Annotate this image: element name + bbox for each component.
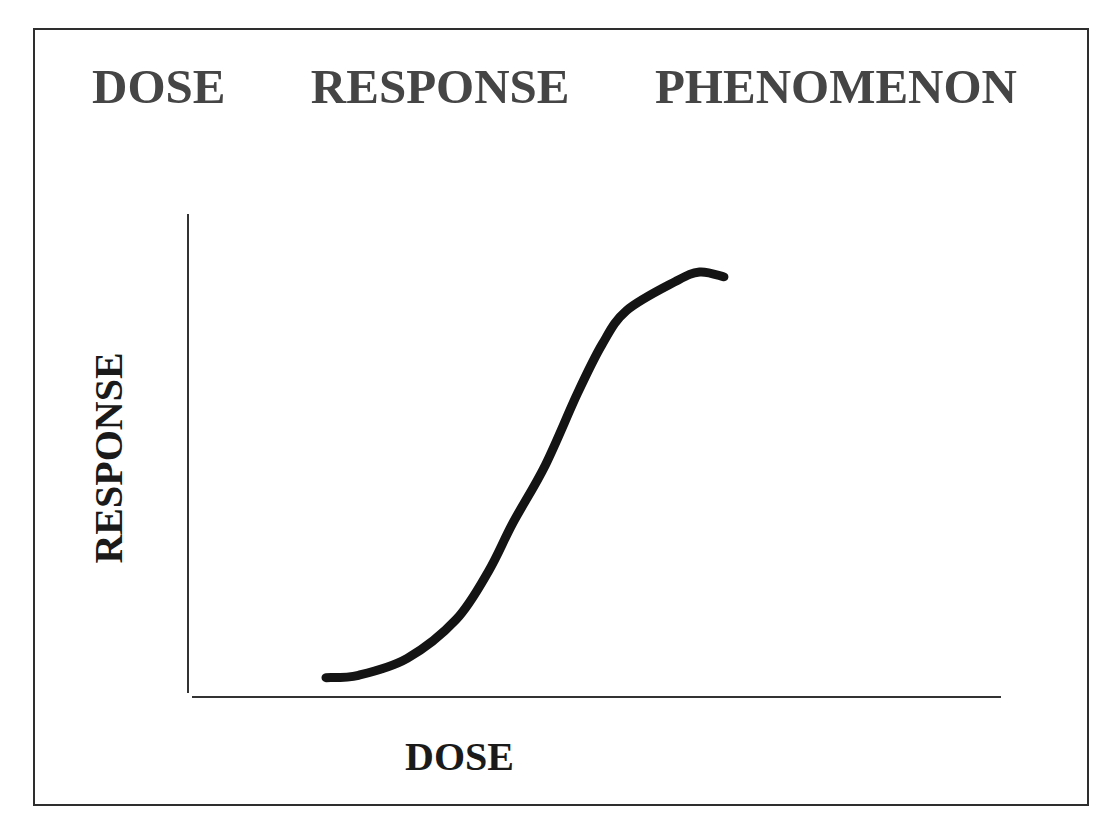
x-axis-label: DOSE [405, 733, 514, 780]
plot-area [0, 0, 1116, 832]
dose-response-curve [326, 272, 724, 678]
y-axis-label: RESPONSE [85, 328, 132, 588]
